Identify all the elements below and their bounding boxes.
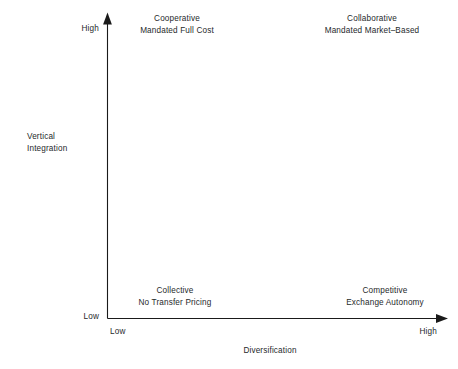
axes-group bbox=[0, 0, 458, 369]
quadrant-top-right-descriptor: Mandated Market–Based bbox=[325, 25, 420, 37]
quadrant-label-top-right: Collaborative Mandated Market–Based bbox=[325, 13, 420, 36]
y-axis-title: Vertical Integration bbox=[27, 131, 67, 154]
y-axis-arrowhead bbox=[103, 13, 112, 25]
quadrant-label-bottom-right: Competitive Exchange Autonomy bbox=[346, 285, 424, 308]
x-axis-tick-high: High bbox=[420, 326, 437, 338]
quadrant-bottom-left-descriptor: No Transfer Pricing bbox=[139, 297, 212, 309]
quadrant-matrix-figure: Cooperative Mandated Full Cost Collabora… bbox=[0, 0, 458, 369]
x-axis-title: Diversification bbox=[243, 345, 296, 357]
quadrant-top-right-name: Collaborative bbox=[325, 13, 420, 25]
y-axis-tick-low: Low bbox=[84, 311, 99, 323]
quadrant-label-top-left: Cooperative Mandated Full Cost bbox=[140, 13, 214, 36]
y-axis-tick-high: High bbox=[82, 23, 99, 35]
quadrant-bottom-right-name: Competitive bbox=[346, 285, 424, 297]
quadrant-top-left-descriptor: Mandated Full Cost bbox=[140, 25, 214, 37]
x-axis-tick-low: Low bbox=[110, 326, 125, 338]
quadrant-top-left-name: Cooperative bbox=[140, 13, 214, 25]
y-axis-title-line-2: Integration bbox=[27, 143, 67, 155]
x-axis-arrowhead bbox=[436, 314, 448, 323]
y-axis-title-line-1: Vertical bbox=[27, 131, 67, 143]
quadrant-bottom-left-name: Collective bbox=[139, 285, 212, 297]
quadrant-label-bottom-left: Collective No Transfer Pricing bbox=[139, 285, 212, 308]
quadrant-bottom-right-descriptor: Exchange Autonomy bbox=[346, 297, 424, 309]
